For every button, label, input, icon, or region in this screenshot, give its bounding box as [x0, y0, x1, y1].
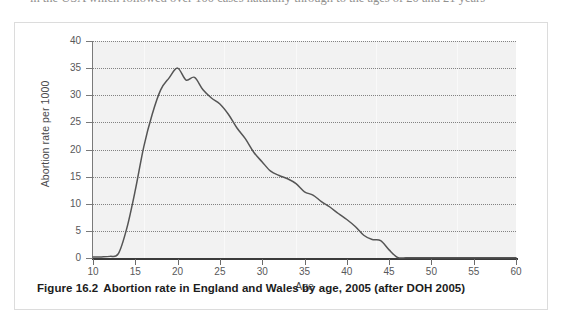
chart-area: 0510152025303540 1015202530354045505560 …: [15, 23, 549, 278]
page-top-text-strip: in the USA which followed over 100 cases…: [0, 0, 568, 14]
cut-off-body-text: in the USA which followed over 100 cases…: [30, 0, 485, 6]
figure-caption-text: Abortion rate in England and Wales by ag…: [103, 282, 465, 294]
figure-box: 0510152025303540 1015202530354045505560 …: [14, 22, 548, 310]
y-axis-title: Abortion rate per 1000: [39, 59, 51, 209]
figure-number: Figure 16.2: [37, 282, 98, 294]
figure-caption: Figure 16.2Abortion rate in England and …: [37, 282, 537, 294]
series-line-abortion-rate: [93, 68, 516, 258]
data-series-svg: [15, 23, 549, 278]
